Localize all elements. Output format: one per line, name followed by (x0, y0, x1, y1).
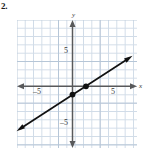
x-axis-name: x (139, 83, 142, 90)
axes-and-plot (0, 0, 144, 154)
y-tick-label-negative-5: –5 (60, 119, 68, 127)
graph-figure: 2. –5 5 5 –5 y x (0, 0, 144, 154)
x-tick-label-positive-5: 5 (111, 88, 115, 96)
point-x-intercept (83, 83, 89, 89)
x-tick-label-negative-5: –5 (33, 88, 41, 96)
y-axis-name: y (72, 12, 75, 19)
y-axis (70, 20, 76, 148)
point-y-intercept (70, 92, 76, 98)
y-tick-label-positive-5: 5 (64, 47, 68, 55)
